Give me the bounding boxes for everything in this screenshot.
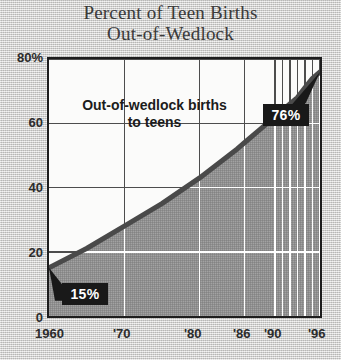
x-axis-tick-1986: '86 [233, 326, 251, 341]
y-axis-tick-40: 40 [2, 180, 43, 195]
x-axis-tick-1996: '96 [308, 326, 326, 341]
chart-title-line-1: Percent of Teen Births [0, 2, 341, 23]
chart-title: Percent of Teen Births Out-of-Wedlock [0, 2, 341, 44]
series-annotation: Out-of-wedlock births to teens [62, 97, 247, 131]
x-axis-tick-1980: '80 [184, 326, 202, 341]
y-axis-tick-20: 20 [2, 245, 43, 260]
chart-title-line-2: Out-of-Wedlock [0, 23, 341, 44]
y-axis-tick-0: 0 [2, 310, 43, 325]
series-annotation-line-2: to teens [62, 114, 247, 131]
x-axis-tick-1960: 1960 [35, 326, 64, 341]
chart-root: Percent of Teen Births Out-of-Wedlock [0, 0, 341, 360]
callout-end-value: 76% [263, 104, 309, 126]
y-axis-tick-60: 60 [2, 115, 43, 130]
x-axis-tick-1970: '70 [113, 326, 131, 341]
x-axis-tick-1990: '90 [264, 326, 282, 341]
series-annotation-line-1: Out-of-wedlock births [62, 97, 247, 114]
y-axis-tick-80: 80% [2, 50, 43, 65]
callout-start-value: 15% [62, 283, 108, 305]
